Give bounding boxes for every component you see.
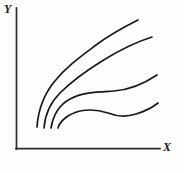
y-axis-label: Y (4, 3, 11, 15)
data-curve-4 (58, 103, 158, 128)
data-curve-3 (51, 75, 157, 128)
sketch-canvas (0, 0, 184, 173)
figure-container: Y X (0, 0, 184, 173)
x-axis-label: X (163, 141, 171, 153)
data-curve-1 (37, 20, 138, 127)
axes-group (16, 8, 160, 149)
curves-group (37, 20, 158, 128)
